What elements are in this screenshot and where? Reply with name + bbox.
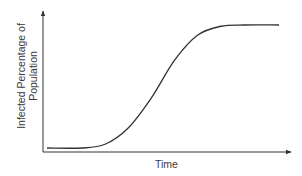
y-axis-label-line-1: Infected Percentage of	[15, 23, 27, 129]
y-axis-label-line-2: Population	[27, 23, 39, 129]
x-axis-label: Time	[155, 158, 178, 170]
sigmoid-chart	[0, 0, 302, 176]
infection-curve	[47, 25, 279, 148]
y-axis-label: Infected Percentage of Population	[15, 23, 39, 129]
